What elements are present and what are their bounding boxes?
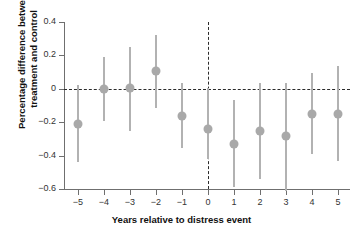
- x-tick-label: −1: [170, 197, 194, 207]
- x-tick-label: −4: [92, 197, 116, 207]
- x-tick-mark: [260, 190, 261, 195]
- y-axis-title-line-2: treatment and control: [28, 0, 40, 149]
- x-tick-mark: [78, 190, 79, 195]
- data-point-marker: [74, 119, 83, 128]
- x-tick-mark: [156, 190, 157, 195]
- x-tick-mark: [312, 190, 313, 195]
- data-point-marker: [204, 124, 213, 133]
- x-tick-label: 1: [222, 197, 246, 207]
- data-point-marker: [334, 109, 343, 118]
- data-point-marker: [282, 132, 291, 141]
- y-tick-mark: [59, 189, 64, 190]
- x-tick-mark: [234, 190, 235, 195]
- x-axis-title: Years relative to distress event: [0, 214, 363, 225]
- y-axis-spine: [64, 22, 65, 189]
- y-tick-label: 0: [51, 83, 56, 93]
- x-tick-mark: [130, 190, 131, 195]
- data-point-marker: [178, 112, 187, 121]
- x-tick-mark: [182, 190, 183, 195]
- x-tick-label: 0: [196, 197, 220, 207]
- data-point-marker: [230, 139, 239, 148]
- x-tick-label: 3: [274, 197, 298, 207]
- y-tick-mark: [59, 22, 64, 23]
- chart-figure: Percentage difference between treatment …: [0, 0, 363, 240]
- y-tick-label: −0.2: [38, 116, 56, 126]
- y-tick-label: −0.4: [38, 150, 56, 160]
- x-tick-mark: [104, 190, 105, 195]
- data-point-marker: [100, 84, 109, 93]
- data-point-marker: [126, 83, 135, 92]
- data-point-marker: [152, 67, 161, 76]
- y-tick-label: 0.4: [43, 16, 56, 26]
- x-tick-label: 5: [326, 197, 350, 207]
- data-point-marker: [308, 109, 317, 118]
- y-tick-mark: [59, 55, 64, 56]
- x-tick-label: 2: [248, 197, 272, 207]
- y-tick-mark: [59, 156, 64, 157]
- y-tick-mark: [59, 89, 64, 90]
- y-axis-title-line-1: Percentage difference between: [16, 0, 28, 149]
- y-axis-title: Percentage difference between treatment …: [16, 0, 40, 149]
- y-tick-label: −0.6: [38, 183, 56, 193]
- data-point-marker: [256, 127, 265, 136]
- y-tick-mark: [59, 122, 64, 123]
- y-tick-label: 0.2: [43, 49, 56, 59]
- x-tick-label: −2: [144, 197, 168, 207]
- x-tick-label: −5: [66, 197, 90, 207]
- x-tick-mark: [286, 190, 287, 195]
- x-axis-spine: [64, 189, 350, 190]
- x-tick-mark: [208, 190, 209, 195]
- x-tick-mark: [338, 190, 339, 195]
- x-tick-label: 4: [300, 197, 324, 207]
- x-tick-label: −3: [118, 197, 142, 207]
